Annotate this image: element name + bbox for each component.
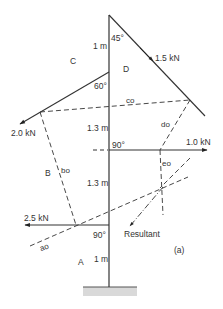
resultant-line xyxy=(130,187,163,226)
force-diagram: 45° 1 m 1.5 kN C D 60° co 2.0 kN 1.3 m d… xyxy=(0,0,223,309)
ray-eo-label: eo xyxy=(162,159,171,168)
dim-lower-mid: 1.3 m xyxy=(87,178,108,188)
caption: (a) xyxy=(174,245,185,255)
space-label-d: D xyxy=(123,64,129,74)
ray-co xyxy=(40,100,190,112)
angle-90-mid: 90° xyxy=(112,140,125,150)
angle-60: 60° xyxy=(94,81,107,91)
space-label-b: B xyxy=(45,168,51,178)
ray-do-label: do xyxy=(161,120,170,129)
ray-bo-label: bo xyxy=(61,166,70,175)
space-label-a: A xyxy=(78,257,84,267)
dim-upper-mid: 1.3 m xyxy=(87,123,108,133)
force-1-5kn-arrow xyxy=(140,48,153,61)
ground-support xyxy=(83,287,137,296)
resultant-label: Resultant xyxy=(124,229,161,239)
force-1-5kn-label: 1.5 kN xyxy=(155,53,180,63)
dim-bottom: 1 m xyxy=(94,254,108,264)
angle-90-low: 90° xyxy=(93,230,106,240)
ray-ao-label: ao xyxy=(38,241,50,253)
force-2kn-line xyxy=(20,72,109,124)
force-1kn-label: 1.0 kN xyxy=(186,137,211,147)
force-2kn-label: 2.0 kN xyxy=(11,128,36,138)
angle-45: 45° xyxy=(111,33,124,43)
force-2-5kn-label: 2.5 kN xyxy=(24,213,49,223)
dim-top: 1 m xyxy=(93,41,107,51)
ray-co-label: co xyxy=(126,96,135,105)
space-label-c: C xyxy=(70,56,76,66)
